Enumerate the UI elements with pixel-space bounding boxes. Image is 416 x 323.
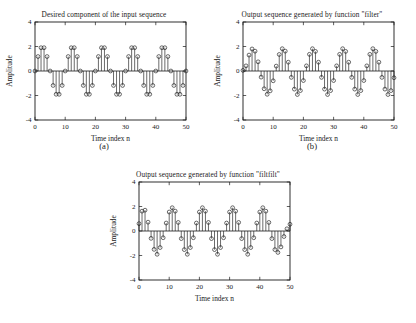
x-tick-label: 20	[196, 283, 204, 291]
y-tick-label: -4	[130, 276, 136, 284]
x-tick-label: 0	[33, 123, 37, 131]
x-tick-label: 10	[62, 123, 70, 131]
x-tick-label: 20	[300, 123, 308, 131]
stem-plot-b: 01020304050-4-2024Time index nAmplitude	[208, 0, 416, 145]
subfigure-c: Output sequence generated by function "f…	[104, 160, 312, 323]
y-tick-label: 2	[132, 203, 136, 211]
x-tick-label: 10	[270, 123, 278, 131]
x-tick-label: 40	[152, 123, 160, 131]
subfigure-a: Desired component of the input sequence …	[0, 0, 208, 162]
y-tick-label: -4	[234, 116, 240, 124]
x-tick-label: 0	[241, 123, 245, 131]
stem-plot-a: 01020304050-4-2024Time index nAmplitude	[0, 0, 208, 145]
subfigure-b: Output sequence generated by function "f…	[208, 0, 416, 162]
x-tick-label: 10	[166, 283, 174, 291]
y-axis-label: Amplitude	[213, 54, 222, 86]
x-tick-label: 30	[226, 283, 234, 291]
y-tick-label: -2	[26, 92, 32, 100]
y-tick-label: -4	[26, 116, 32, 124]
stem-plot-c: 01020304050-4-2024Time index nAmplitude	[104, 160, 312, 305]
subfigure-label-a: (a)	[0, 141, 208, 151]
x-tick-label: 0	[137, 283, 141, 291]
y-axis-label: Amplitude	[5, 54, 14, 86]
x-tick-label: 50	[391, 123, 399, 131]
y-tick-label: 2	[236, 43, 240, 51]
x-tick-label: 50	[287, 283, 295, 291]
y-tick-label: -2	[130, 252, 136, 260]
x-tick-label: 50	[183, 123, 191, 131]
y-tick-label: 4	[236, 18, 240, 26]
y-tick-label: 4	[28, 18, 32, 26]
x-axis-label: Time index n	[195, 294, 234, 303]
y-tick-label: 2	[28, 43, 32, 51]
y-tick-label: 0	[236, 67, 240, 75]
x-tick-label: 40	[360, 123, 368, 131]
x-tick-label: 40	[256, 283, 264, 291]
x-tick-label: 20	[92, 123, 100, 131]
y-tick-label: 0	[132, 227, 136, 235]
subfigure-label-b: (b)	[208, 141, 416, 151]
x-tick-label: 30	[330, 123, 338, 131]
y-axis-label: Amplitude	[109, 214, 118, 246]
y-tick-label: 0	[28, 67, 32, 75]
x-tick-label: 30	[122, 123, 130, 131]
y-tick-label: -2	[234, 92, 240, 100]
y-tick-label: 4	[132, 178, 136, 186]
